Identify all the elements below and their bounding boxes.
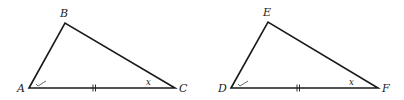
triangle-def: x D E F	[217, 6, 390, 95]
vertex-label-f: F	[381, 82, 390, 95]
triangle-abc: x A B C	[16, 7, 188, 95]
angle-f-label: x	[349, 77, 354, 87]
vertex-label-e: E	[262, 6, 271, 19]
congruent-triangles-figure: x A B C x D E F	[0, 0, 404, 100]
vertex-label-a: A	[16, 82, 25, 95]
triangle-def-outline	[231, 22, 378, 88]
angle-a-check-mark-icon	[36, 81, 46, 86]
vertex-label-c: C	[179, 82, 188, 95]
angle-c-label: x	[146, 77, 151, 87]
angle-d-check-mark-icon	[238, 81, 248, 86]
vertex-label-b: B	[59, 7, 68, 20]
triangle-abc-outline	[29, 23, 175, 88]
vertex-label-d: D	[217, 82, 227, 95]
